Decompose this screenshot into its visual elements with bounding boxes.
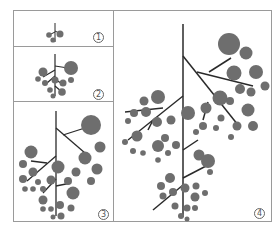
panel-label-4: 4: [254, 208, 265, 219]
tree-diagram-stage-4: [113, 10, 272, 222]
panel-3: 3: [13, 101, 114, 222]
panel-label-1: 1: [93, 32, 104, 43]
panel-1: 1: [13, 10, 114, 47]
panel-2: 2: [13, 46, 114, 102]
panel-label-3: 3: [98, 209, 109, 220]
panel-label-2: 2: [93, 89, 104, 100]
tree-diagram-stage-3: [13, 101, 114, 222]
panel-4: 4: [113, 10, 272, 222]
